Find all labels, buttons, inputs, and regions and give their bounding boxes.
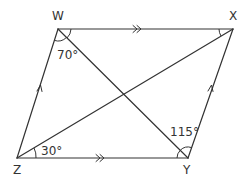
angle-arc-w-70: [54, 37, 66, 41]
single-arrow-icon-yx: [208, 85, 213, 92]
angle-label-w: 70°: [57, 48, 78, 62]
angle-arc-z-30: [34, 148, 36, 158]
vertex-label-z: Z: [13, 163, 21, 177]
angle-arc-x: [219, 29, 221, 36]
angle-arc-y-115: [177, 150, 180, 158]
vertex-label-w: W: [52, 9, 64, 23]
angle-arc-y-115b: [180, 147, 191, 150]
side-zw: [17, 29, 58, 158]
diagonal-zx: [17, 29, 233, 158]
angle-label-y: 115°: [170, 125, 199, 139]
parallelogram-diagram: W X Y Z 70° 30° 115°: [0, 0, 245, 178]
angle-label-z: 30°: [41, 144, 62, 158]
angle-arc-w-top: [67, 29, 71, 38]
vertex-label-y: Y: [182, 163, 191, 177]
vertex-label-x: X: [229, 9, 237, 23]
